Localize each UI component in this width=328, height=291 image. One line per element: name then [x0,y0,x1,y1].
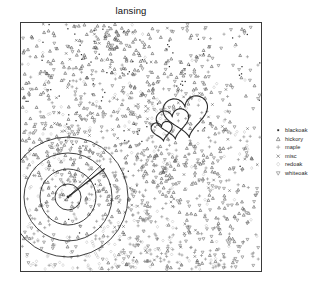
legend-item-misc[interactable]: misc [274,152,326,160]
plus-icon [274,143,285,151]
page-title: lansing [0,5,262,16]
concentric-circles-group [20,137,128,257]
legend-label: whiteoak [285,169,307,177]
legend-item-maple[interactable]: maple [274,143,326,151]
legend-item-hickory[interactable]: hickory [274,135,326,143]
plot-area [20,22,262,272]
radial-hand-line [68,169,104,197]
diamond-icon [274,160,285,168]
legend: blackoak hickory maple misc redoak white… [274,126,326,178]
radial-hand-line-secondary [68,165,101,197]
legend-item-redoak[interactable]: redoak [274,160,326,168]
filled-square-icon [274,126,285,134]
triangle-down-icon [274,169,285,177]
legend-item-whiteoak[interactable]: whiteoak [274,169,326,177]
cross-x-icon [274,152,285,160]
legend-label: redoak [285,160,302,168]
legend-label: misc [285,152,297,160]
plot-root: lansing blackoak hickory maple misc redo… [0,0,328,291]
triangle-up-icon [274,135,285,143]
legend-label: maple [285,143,301,151]
nested-hearts-group [150,94,211,142]
legend-label: blackoak [285,126,307,134]
legend-label: hickory [285,135,303,143]
legend-item-blackoak[interactable]: blackoak [274,126,326,134]
circle-center-dot [67,196,70,199]
heart-outline-3 [150,121,174,143]
overlay-shapes-layer [20,22,262,272]
